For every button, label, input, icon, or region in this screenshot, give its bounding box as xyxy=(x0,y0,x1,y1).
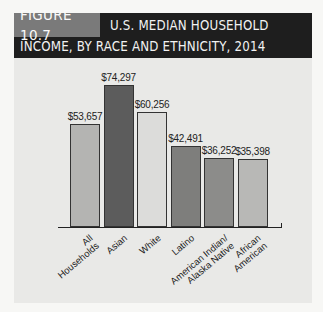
bar-american-indian xyxy=(204,158,234,227)
value-label: $53,657 xyxy=(60,111,110,122)
x-axis-end-tick xyxy=(281,223,282,228)
value-label: $42,491 xyxy=(161,133,211,144)
value-label: $35,398 xyxy=(228,146,278,157)
bar-chart: $53,657 $74,297 $60,256 $42,491 $36,252 … xyxy=(0,0,323,312)
category-label-latino: Latino xyxy=(170,233,196,257)
bar-white xyxy=(137,112,167,227)
category-label-all-households: All Households xyxy=(50,233,101,281)
bar-african-american xyxy=(238,159,268,227)
value-label: $60,256 xyxy=(127,99,177,110)
category-label-asian: Asian xyxy=(105,233,130,256)
bar-all-households xyxy=(70,124,100,227)
x-axis xyxy=(58,227,281,228)
value-label: $74,297 xyxy=(94,72,144,83)
bar-latino xyxy=(171,146,201,227)
category-label-african-american: African American xyxy=(225,233,269,274)
category-label-white: White xyxy=(137,233,162,256)
